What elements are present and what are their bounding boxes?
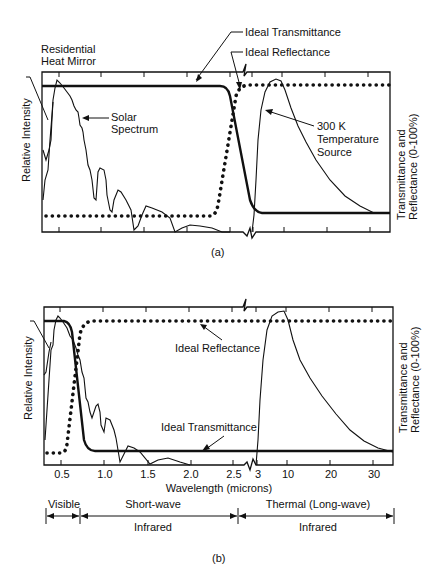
chart-a-caption: (a) bbox=[211, 246, 224, 258]
band-thermal-label: Thermal (Long-wave) bbox=[266, 498, 371, 510]
chart-a-annotation-300k-line2: Temperature bbox=[317, 133, 379, 145]
xtick-label: 10 bbox=[282, 468, 294, 480]
chart-a-annotation-300k-line3: Source bbox=[317, 146, 352, 158]
chart-b-ylabel-left: Relative Intensity bbox=[22, 336, 34, 420]
band-shortwave-sublabel: Infrared bbox=[134, 521, 172, 533]
chart-a-annotation-ideal-transmittance-leader bbox=[196, 32, 243, 80]
chart-a-ylabel-right-line1: Transmittance and bbox=[395, 129, 407, 220]
chart-b-frame bbox=[44, 299, 393, 470]
chart-b-ylabel-right-line2: Reflectance (0-100%) bbox=[409, 327, 421, 433]
chart-b-caption: (b) bbox=[212, 552, 225, 564]
xtick-label: 3 bbox=[255, 468, 261, 480]
arrowhead-icon bbox=[265, 109, 273, 115]
arrowhead-icon bbox=[82, 115, 89, 121]
chart-a-solar-spectrum-curve bbox=[43, 80, 230, 232]
chart-a-annotation-ideal-transmittance: Ideal Transmittance bbox=[245, 26, 341, 38]
xtick-label: 20 bbox=[325, 468, 337, 480]
chart-b-top-ticks bbox=[60, 307, 372, 312]
chart-a-ylabel-left: Relative Intensity bbox=[20, 98, 32, 182]
chart-a-annotation-300k-line1: 300 K bbox=[317, 120, 346, 132]
chart-b-bands bbox=[46, 508, 394, 524]
chart-a-annotation-heat-mirror-line2: Heat Mirror bbox=[41, 55, 96, 67]
xtick-label: 0.5 bbox=[54, 468, 69, 480]
xtick-label: 1.0 bbox=[97, 468, 112, 480]
chart-b-ylabel-right-line1: Transmittance and bbox=[397, 342, 409, 433]
band-shortwave-label: Short-wave bbox=[125, 498, 181, 510]
chart-a-annotation-ideal-reflectance-leader bbox=[231, 52, 243, 86]
chart-a-top-ticks bbox=[59, 72, 368, 77]
chart-b-annotation-ideal-reflectance-leader bbox=[203, 326, 222, 340]
chart-a-annotation-solar-line1: Solar bbox=[111, 111, 137, 123]
chart-a-annotation-heat-mirror-line1: Residential bbox=[41, 43, 95, 55]
xtick-label: 30 bbox=[368, 468, 380, 480]
chart-a-annotation-ideal-reflectance: Ideal Reflectance bbox=[245, 46, 330, 58]
xtick-label: 2.0 bbox=[183, 468, 198, 480]
chart-a: Residential Heat Mirror Ideal Transmitta… bbox=[20, 26, 419, 258]
xtick-label: 2.5 bbox=[226, 468, 241, 480]
chart-b-annotation-ideal-reflectance: Ideal Reflectance bbox=[175, 342, 260, 354]
xtick-label: 1.5 bbox=[140, 468, 155, 480]
arrowhead-icon bbox=[200, 324, 207, 330]
chart-b: Ideal Reflectance Ideal Transmittance Re… bbox=[22, 299, 421, 564]
chart-a-annotation-solar-line2: Spectrum bbox=[111, 123, 158, 135]
chart-b-xlabel: Wavelength (microns) bbox=[166, 482, 273, 494]
band-visible-label: Visible bbox=[48, 498, 80, 510]
chart-a-ylabel-right-line2: Reflectance (0-100%) bbox=[407, 114, 419, 220]
figure: Residential Heat Mirror Ideal Transmitta… bbox=[0, 0, 437, 564]
chart-b-300k-source-curve bbox=[256, 311, 393, 465]
chart-b-solar-spectrum-curve bbox=[45, 316, 190, 465]
chart-a-annotation-300k-leader bbox=[268, 111, 314, 126]
chart-b-ideal-reflectance-curve bbox=[47, 321, 393, 453]
chart-b-bottom-ticks bbox=[61, 460, 373, 465]
band-thermal-sublabel: Infrared bbox=[299, 521, 337, 533]
chart-b-xtick-labels: 0.5 1.0 1.5 2.0 2.5 3 10 20 30 bbox=[54, 468, 380, 480]
chart-b-annotation-ideal-transmittance: Ideal Transmittance bbox=[161, 421, 257, 433]
